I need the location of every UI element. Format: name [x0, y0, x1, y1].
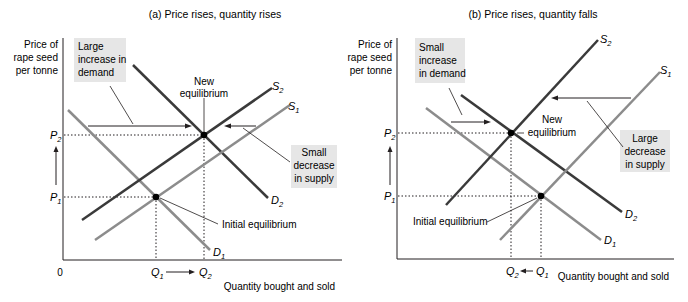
box-text: in demand: [419, 68, 466, 79]
new-equilibrium-point: [201, 132, 208, 139]
panel-b: (b) Price rises, quantity falls Price of…: [348, 8, 674, 282]
box-text: decrease: [624, 146, 666, 157]
panel-b-title: (b) Price rises, quantity falls: [469, 8, 598, 20]
leader-line: [587, 101, 623, 147]
p2-label: P2: [50, 129, 62, 144]
box-text: in supply: [294, 173, 333, 184]
d1-label: D1: [213, 246, 225, 261]
origin-label: 0: [57, 267, 63, 278]
arrow-head-icon: [224, 124, 231, 129]
y-axis-label-line1: Price of: [358, 39, 392, 50]
initial-equilibrium-point: [538, 193, 545, 200]
d2-label: D2: [271, 194, 284, 209]
y-axis-label-line3: per tonne: [350, 65, 393, 76]
d2-label: D2: [625, 208, 638, 223]
guide-lines: [398, 133, 541, 259]
x-axis-label: Quantity bought and sold: [224, 281, 335, 292]
s1-label: S1: [288, 100, 300, 115]
arrow-head-icon: [388, 146, 393, 152]
box-text: demand: [78, 67, 114, 78]
new-equilibrium-label: New: [194, 76, 215, 87]
box-text: Large: [632, 133, 658, 144]
box-text: decrease: [293, 160, 335, 171]
initial-equilibrium-point: [153, 194, 160, 201]
panel-a: (a) Price rises, quantity rises Price of…: [14, 8, 342, 292]
y-axis-label-line1: Price of: [24, 39, 58, 50]
new-equilibrium-label: equilibrium: [528, 127, 576, 138]
guide-lines: [64, 135, 204, 260]
new-equilibrium-label: New: [542, 114, 563, 125]
leader-line: [449, 88, 462, 115]
s2-label: S2: [600, 33, 612, 48]
box-text: increase in: [78, 54, 126, 65]
new-equilibrium-point: [508, 130, 515, 137]
box-text: Small: [301, 147, 326, 158]
leader-line: [110, 86, 133, 124]
d1-label: D1: [604, 234, 616, 249]
p2-label: P2: [384, 127, 396, 142]
supply-demand-diagram: (a) Price rises, quantity rises Price of…: [0, 0, 688, 302]
y-axis-label-line2: rape seed: [14, 52, 58, 63]
q2-label: Q2: [199, 266, 213, 281]
y-axis-label-line2: rape seed: [348, 52, 392, 63]
s2-label: S2: [272, 80, 284, 95]
box-text: increase: [419, 55, 457, 66]
q1-label: Q1: [536, 265, 549, 280]
q1-label: Q1: [151, 266, 164, 281]
new-equilibrium-label: equilibrium: [180, 88, 228, 99]
arrow-head-icon: [54, 146, 59, 152]
arrow-head-icon: [551, 96, 558, 101]
p1-label: P1: [384, 190, 396, 205]
arrow-head-icon: [185, 124, 192, 129]
p1-label: P1: [50, 191, 62, 206]
initial-equilibrium-label: Initial equilibrium: [413, 216, 487, 227]
panel-a-title: (a) Price rises, quantity rises: [149, 8, 281, 20]
q2-label: Q2: [506, 265, 520, 280]
box-text: Small: [419, 42, 444, 53]
s1-label: S1: [660, 64, 672, 79]
box-text: Large: [78, 41, 104, 52]
arrow-head-icon: [484, 120, 491, 125]
y-axis-label-line3: per tonne: [16, 65, 59, 76]
arrow-head-icon: [520, 269, 526, 274]
box-text: in supply: [625, 159, 664, 170]
x-axis-label: Quantity bought and sold: [558, 271, 669, 282]
arrow-head-icon: [189, 270, 195, 275]
initial-equilibrium-label: Initial equilibrium: [222, 219, 296, 230]
leader-line: [243, 128, 290, 162]
